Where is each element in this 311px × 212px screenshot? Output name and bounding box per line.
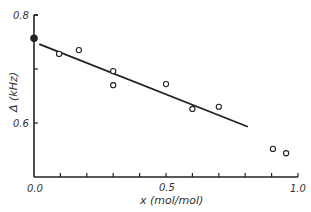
- chart: 0.8 0.6 0.0 0.5 1.0 x (mol/mol) Δ (kHz): [0, 0, 311, 212]
- open-data-point: [216, 104, 221, 109]
- open-data-point: [56, 51, 61, 56]
- filled-data-point: [31, 35, 37, 41]
- open-data-point: [163, 82, 168, 87]
- fit-line: [39, 44, 248, 127]
- open-data-point: [284, 151, 289, 156]
- open-data-point: [111, 69, 116, 74]
- open-data-point: [111, 83, 116, 88]
- x-axis-label: x (mol/mol): [139, 194, 203, 207]
- open-data-point: [76, 48, 81, 53]
- open-data-point: [190, 106, 195, 111]
- y-axis-label: Δ (kHz): [7, 72, 20, 113]
- x-tick-label-1.0: 1.0: [290, 183, 306, 194]
- data-points: [31, 35, 289, 156]
- x-tick-label-0.0: 0.0: [27, 183, 43, 194]
- x-tick-label-0.5: 0.5: [159, 182, 175, 193]
- y-tick-label-0.6: 0.6: [13, 118, 29, 129]
- y-tick-label-0.8: 0.8: [13, 10, 29, 21]
- axes: [34, 15, 298, 177]
- open-data-point: [270, 146, 275, 151]
